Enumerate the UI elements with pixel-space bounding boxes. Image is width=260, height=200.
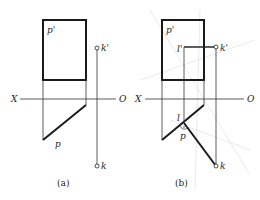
caption-b: (b) xyxy=(175,178,188,188)
label-l: l xyxy=(177,113,180,123)
projection-diagram: p' p k' k X O (a) p' l' l p k' k X O (b) xyxy=(0,0,260,200)
label-p-prime: p' xyxy=(47,25,55,35)
background-construction-lines xyxy=(140,10,255,190)
panel-a: p' p k' k X O (a) xyxy=(10,20,127,188)
perpendicular-l-to-k xyxy=(184,123,216,166)
point-k xyxy=(214,164,218,168)
plane-top-view-p xyxy=(43,105,86,140)
label-k: k xyxy=(220,161,225,171)
label-l-prime: l' xyxy=(177,44,182,54)
label-p: p xyxy=(180,131,186,141)
point-k-prime xyxy=(214,45,218,49)
label-origin: O xyxy=(247,94,255,104)
label-k-prime: k' xyxy=(101,43,109,53)
label-origin: O xyxy=(119,94,127,104)
label-k-prime: k' xyxy=(220,43,228,53)
label-k: k xyxy=(101,161,106,171)
point-k-prime xyxy=(95,46,99,50)
label-p: p xyxy=(55,139,61,149)
label-p-prime: p' xyxy=(166,25,174,35)
label-x-axis: X xyxy=(134,94,142,104)
point-k xyxy=(95,164,99,168)
label-x-axis: X xyxy=(10,94,18,104)
panel-b: p' l' l p k' k X O (b) xyxy=(134,20,255,188)
right-angle-dot xyxy=(183,126,184,127)
caption-a: (a) xyxy=(57,178,69,188)
